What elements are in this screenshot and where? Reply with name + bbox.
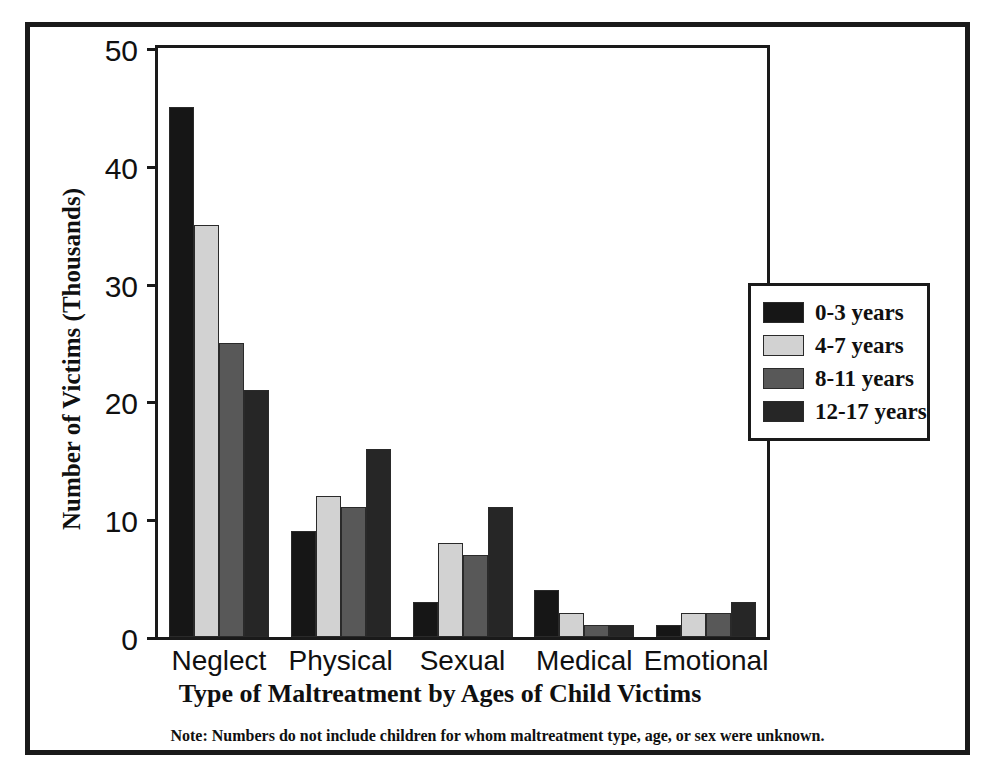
x-axis-label-emotional: Emotional (644, 645, 769, 677)
legend-label: 12-17 years (815, 400, 927, 423)
bar (534, 590, 559, 637)
legend-item[interactable]: 4-7 years (763, 329, 917, 362)
bar (244, 390, 269, 637)
bar (584, 625, 609, 637)
y-axis-tick-label: 20 (105, 387, 138, 421)
y-axis-tick-label: 30 (105, 270, 138, 304)
bar (413, 602, 438, 637)
legend-swatch-icon (763, 368, 804, 389)
legend-item[interactable]: 0-3 years (763, 296, 917, 329)
bar (681, 613, 706, 637)
figure-outer-border: Number of Victims (Thousands) 0102030405… (25, 22, 970, 755)
bar (291, 531, 316, 637)
bar (706, 613, 731, 637)
bar (488, 507, 513, 637)
bar (316, 496, 341, 637)
y-axis-tick: 40 (147, 166, 158, 169)
legend-swatch-icon (763, 401, 804, 422)
legend-swatch-icon (763, 335, 804, 356)
legend-label: 8-11 years (815, 367, 914, 390)
bars-layer (158, 48, 767, 637)
bar (559, 613, 584, 637)
x-axis-label-neglect: Neglect (171, 645, 266, 677)
y-axis-tick-label: 10 (105, 505, 138, 539)
x-axis-label-medical: Medical (536, 645, 632, 677)
bar (463, 555, 488, 637)
y-axis-tick-label: 40 (105, 152, 138, 186)
legend-label: 0-3 years (815, 301, 904, 324)
bar (219, 343, 244, 638)
y-axis-tick: 20 (147, 401, 158, 404)
legend-item[interactable]: 8-11 years (763, 362, 917, 395)
x-axis-label-sexual: Sexual (420, 645, 506, 677)
x-axis-label-physical: Physical (289, 645, 393, 677)
bar (341, 507, 366, 637)
bar (656, 625, 681, 637)
plot-area: 01020304050 (155, 45, 770, 640)
bar (609, 625, 634, 637)
chart-legend: 0-3 years4-7 years8-11 years12-17 years (748, 283, 930, 441)
bar (731, 602, 756, 637)
bar (438, 543, 463, 637)
bar (194, 225, 219, 637)
y-axis-tick: 30 (147, 284, 158, 287)
figure-container: Number of Victims (Thousands) 0102030405… (0, 0, 1003, 782)
bar (169, 107, 194, 637)
chart-footnote: Note: Numbers do not include children fo… (30, 727, 965, 745)
y-axis-tick: 50 (147, 48, 158, 51)
bar (366, 449, 391, 637)
legend-item[interactable]: 12-17 years (763, 395, 917, 428)
y-axis-tick-label: 0 (121, 623, 138, 657)
y-axis-tick: 10 (147, 519, 158, 522)
y-axis-title: Number of Victims (Thousands) (58, 149, 86, 569)
y-axis-tick: 0 (147, 637, 158, 640)
y-axis-tick-label: 50 (105, 34, 138, 68)
x-axis-title: Type of Maltreatment by Ages of Child Vi… (90, 679, 790, 709)
legend-label: 4-7 years (815, 334, 904, 357)
legend-swatch-icon (763, 302, 804, 323)
